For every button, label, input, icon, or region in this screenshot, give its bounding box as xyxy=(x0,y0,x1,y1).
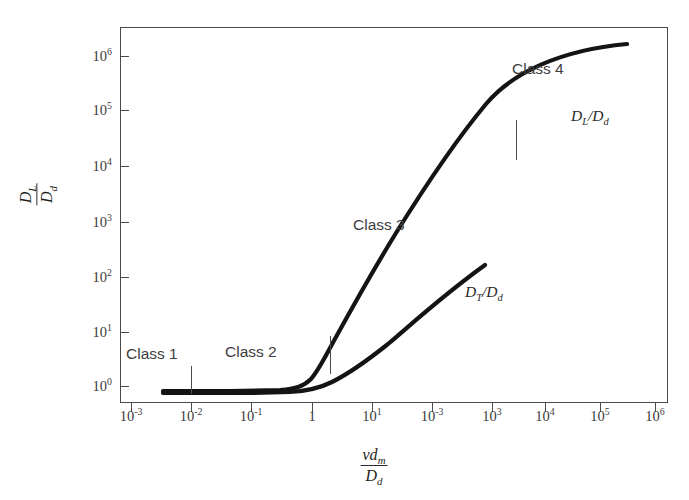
x-tick-exponent-2: -1 xyxy=(254,406,262,417)
x-tick-base-3: 1 xyxy=(308,408,315,424)
x-tick-exponent-7: 4 xyxy=(550,406,555,417)
y-tick-exponent-5: 1 xyxy=(107,322,112,333)
y-tick-base-1: 10 xyxy=(93,102,108,118)
plot-frame xyxy=(120,27,668,403)
y-tick-base-2: 10 xyxy=(93,158,108,174)
figure-container: Class 1 Class 2 Class 3 Class 4 DL/Dd DT… xyxy=(0,0,689,500)
curve-label-dl-den-sub: d xyxy=(604,116,609,127)
y-tick-label-6: 100 xyxy=(93,379,112,394)
x-tick-label-4: 101 xyxy=(362,409,381,424)
y-tick-mark-0 xyxy=(120,56,129,57)
curve-label-dt-den: /D xyxy=(482,283,498,300)
y-tick-exponent-1: 5 xyxy=(107,100,112,111)
x-tick-label-3: 1 xyxy=(308,409,315,424)
y-tick-base-6: 10 xyxy=(93,378,108,394)
y-tick-base-0: 10 xyxy=(93,48,108,64)
x-tick-label-1: 10-2 xyxy=(180,409,203,424)
curve-label-dl-over-dd: DL/Dd xyxy=(571,107,609,125)
x-tick-exponent-9: 6 xyxy=(660,406,665,417)
x-tick-base-8: 10 xyxy=(590,408,605,424)
class1-class2-divider xyxy=(191,366,192,394)
y-tick-exponent-3: 3 xyxy=(107,212,112,223)
y-den-base: D xyxy=(38,191,55,203)
y-tick-base-3: 10 xyxy=(93,214,108,230)
y-tick-base-5: 10 xyxy=(93,324,108,340)
x-tick-base-1: 10 xyxy=(180,408,195,424)
y-tick-base-4: 10 xyxy=(93,269,108,285)
x-axis-fraction: vdm Dd xyxy=(361,446,388,485)
y-tick-label-0: 106 xyxy=(93,49,112,64)
annotation-class-2: Class 2 xyxy=(225,343,277,361)
y-num-sub: L xyxy=(26,186,38,192)
y-tick-label-1: 105 xyxy=(93,103,112,118)
x-tick-base-5: 10 xyxy=(421,408,436,424)
x-tick-exponent-0: -3 xyxy=(134,406,142,417)
y-tick-mark-1 xyxy=(120,110,129,111)
x-tick-label-9: 106 xyxy=(645,409,664,424)
y-tick-label-4: 102 xyxy=(93,270,112,285)
x-tick-label-6: 103 xyxy=(482,409,501,424)
x-tick-exponent-4: 1 xyxy=(377,406,382,417)
x-tick-base-6: 10 xyxy=(482,408,497,424)
x-axis-title: vdm Dd xyxy=(361,446,388,485)
curve-label-dt-over-dd: DT/Dd xyxy=(465,283,503,301)
x-axis-denominator: Dd xyxy=(361,466,388,485)
y-tick-label-2: 104 xyxy=(93,159,112,174)
x-tick-exponent-6: 3 xyxy=(497,406,502,417)
x-tick-base-2: 10 xyxy=(240,408,255,424)
annotation-class-3: Class 3 xyxy=(353,216,405,234)
x-tick-exponent-8: 5 xyxy=(605,406,610,417)
x-tick-label-5: 10-3 xyxy=(421,409,444,424)
x-tick-base-7: 10 xyxy=(535,408,550,424)
y-tick-label-5: 101 xyxy=(93,325,112,340)
x-den-base: D xyxy=(366,467,378,484)
y-tick-exponent-4: 2 xyxy=(107,267,112,278)
class3-class4-divider xyxy=(516,120,517,160)
class2-class3-divider xyxy=(330,336,331,374)
y-axis-denominator: Dd xyxy=(37,184,56,206)
y-tick-mark-6 xyxy=(120,386,129,387)
y-tick-mark-4 xyxy=(120,277,129,278)
y-num-base: D xyxy=(17,192,34,204)
y-tick-exponent-0: 6 xyxy=(107,46,112,57)
curve-label-dt-den-sub: d xyxy=(498,292,503,303)
y-tick-label-3: 103 xyxy=(93,215,112,230)
x-tick-base-9: 10 xyxy=(645,408,660,424)
x-num-base: vd xyxy=(363,446,378,463)
y-axis-title: DL Dd xyxy=(17,184,56,206)
x-tick-label-0: 10-3 xyxy=(120,409,143,424)
x-tick-base-4: 10 xyxy=(362,408,377,424)
y-axis-fraction: DL Dd xyxy=(17,184,56,206)
x-num-sub: m xyxy=(378,454,386,466)
x-tick-label-2: 10-1 xyxy=(240,409,263,424)
x-tick-base-0: 10 xyxy=(120,408,135,424)
curve-label-dt-text: D xyxy=(465,283,476,300)
x-tick-label-8: 105 xyxy=(590,409,609,424)
y-tick-mark-2 xyxy=(120,166,129,167)
x-tick-exponent-1: -2 xyxy=(194,406,202,417)
y-tick-exponent-6: 0 xyxy=(107,376,112,387)
curve-label-dl-den: /D xyxy=(588,107,604,124)
y-tick-exponent-2: 4 xyxy=(107,156,112,167)
y-axis-numerator: DL xyxy=(17,184,37,206)
x-den-sub: d xyxy=(377,475,382,487)
curve-label-dl-text: D xyxy=(571,107,582,124)
annotation-class-4: Class 4 xyxy=(512,60,564,78)
x-tick-label-7: 104 xyxy=(535,409,554,424)
y-tick-mark-5 xyxy=(120,332,129,333)
x-axis-numerator: vdm xyxy=(361,446,388,466)
y-tick-mark-3 xyxy=(120,222,129,223)
x-tick-exponent-5: -3 xyxy=(435,406,443,417)
y-den-sub: d xyxy=(46,186,58,191)
annotation-class-1: Class 1 xyxy=(126,345,178,363)
